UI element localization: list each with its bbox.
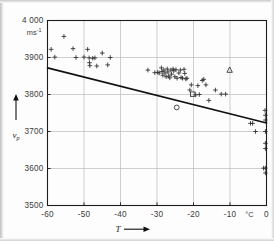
x-tick-label: 0	[264, 210, 269, 219]
y-tick-label: 3900	[24, 53, 43, 62]
data-point-plus	[71, 46, 76, 51]
data-point-plus	[213, 88, 218, 93]
y-axis-arrow-head	[13, 94, 19, 101]
x-tick-label: -60	[41, 210, 54, 219]
data-point-plus	[219, 92, 224, 97]
data-point-square	[191, 92, 195, 96]
y-tick-label: 3700	[24, 127, 43, 136]
x-axis-arrow-head	[144, 226, 151, 232]
data-point-plus	[74, 55, 79, 60]
data-point-plus	[108, 55, 113, 60]
data-point-plus	[207, 98, 212, 103]
data-point-plus	[223, 92, 228, 97]
data-point-plus	[159, 66, 164, 71]
grid-layer	[48, 21, 267, 206]
data-point-plus	[182, 71, 187, 76]
data-point-plus	[100, 51, 105, 56]
data-point-plus	[49, 47, 54, 52]
data-point-plus	[146, 68, 151, 73]
data-point-plus	[94, 64, 99, 69]
y-axis-title: vp	[13, 130, 20, 141]
data-point-plus	[253, 129, 258, 134]
data-point-plus	[196, 83, 201, 88]
x-tick-label: -20	[187, 210, 200, 219]
x-tick-label: -40	[114, 210, 127, 219]
data-point-plus	[62, 34, 67, 39]
data-point-triangle	[227, 67, 232, 72]
x-axis-unit: °C	[245, 210, 254, 219]
data-point-plus	[197, 92, 202, 97]
data-point-plus	[174, 67, 179, 72]
data-point-plus	[184, 77, 189, 82]
data-point-plus	[93, 56, 98, 61]
data-point-plus	[88, 63, 93, 68]
x-tick-label: -50	[78, 210, 91, 219]
data-point-plus	[105, 63, 110, 68]
data-point-circle	[174, 105, 179, 110]
data-point-plus	[185, 76, 190, 81]
figure-container: 350036003700380039004 000-60-50-40-30-20…	[0, 0, 274, 241]
y-tick-label: 3800	[24, 90, 43, 99]
data-points	[49, 34, 268, 175]
y-tick-label: 3600	[24, 164, 43, 173]
scatter-plot: 350036003700380039004 000-60-50-40-30-20…	[0, 0, 274, 241]
y-axis-unit: ms-1	[27, 27, 42, 37]
data-point-plus	[189, 83, 194, 88]
x-tick-label: -10	[224, 210, 237, 219]
y-tick-label: 4 000	[22, 16, 44, 25]
x-axis-title: T	[115, 224, 121, 234]
x-tick-label: -30	[151, 210, 164, 219]
data-point-plus	[85, 47, 90, 52]
data-point-plus	[82, 55, 87, 60]
data-point-plus	[250, 121, 255, 126]
data-point-plus	[204, 83, 209, 88]
data-point-plus	[165, 67, 170, 72]
data-point-plus	[53, 55, 58, 60]
data-point-plus	[182, 67, 187, 72]
